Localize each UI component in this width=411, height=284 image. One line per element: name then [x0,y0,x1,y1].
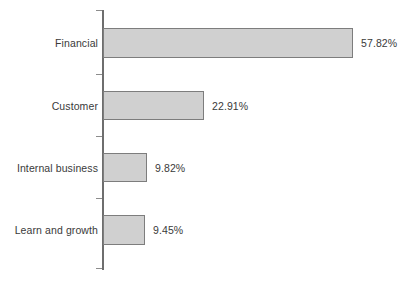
bar-value-label: 9.82% [155,162,185,174]
bar[interactable] [103,28,353,58]
category-label: Learn and growth [15,224,98,236]
y-axis-tick [96,136,102,137]
bar-value-label: 22.91% [212,100,248,112]
category-label: Internal business [17,162,98,174]
category-label: Financial [55,37,98,49]
y-axis-tick [96,268,102,269]
plot-area: Financial57.82%Customer22.91%Internal bu… [0,0,411,284]
bar-chart: Financial57.82%Customer22.91%Internal bu… [0,0,411,284]
bar[interactable] [103,153,147,182]
category-label: Customer [52,100,98,112]
y-axis-tick [96,198,102,199]
bar[interactable] [103,215,145,245]
bar-value-label: 9.45% [153,224,183,236]
bar[interactable] [103,91,204,120]
y-axis-tick [96,10,102,11]
bar-value-label: 57.82% [361,37,397,49]
y-axis-tick [96,74,102,75]
